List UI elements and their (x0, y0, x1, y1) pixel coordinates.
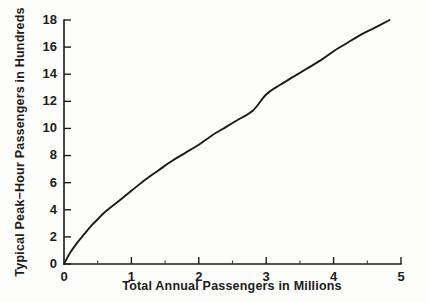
chart-figure: 024681012141618 012345 Total Annual Pass… (0, 0, 428, 302)
y-tick-label: 2 (50, 229, 57, 244)
y-axis-title: Typical Peak−Hour Passengers in Hundreds (13, 7, 27, 276)
y-tick-label: 6 (50, 175, 57, 190)
y-tick-label: 14 (43, 66, 58, 81)
y-tick-label: 0 (50, 256, 57, 271)
y-tick-label: 16 (43, 39, 57, 54)
x-axis-ticks (131, 257, 401, 264)
y-tick-label: 10 (43, 120, 57, 135)
x-tick-label: 5 (397, 269, 404, 284)
line-chart: 024681012141618 012345 Total Annual Pass… (0, 0, 428, 302)
y-tick-label: 12 (43, 93, 57, 108)
data-curve (64, 20, 390, 264)
x-axis-title: Total Annual Passengers in Millions (122, 279, 342, 293)
y-tick-label: 8 (50, 147, 57, 162)
axis-spines (64, 20, 401, 264)
y-tick-label: 4 (50, 202, 58, 217)
y-axis-ticks (64, 20, 71, 264)
y-tick-label: 18 (43, 12, 57, 27)
y-axis-tick-labels: 024681012141618 (43, 12, 58, 271)
x-tick-label: 0 (60, 269, 67, 284)
